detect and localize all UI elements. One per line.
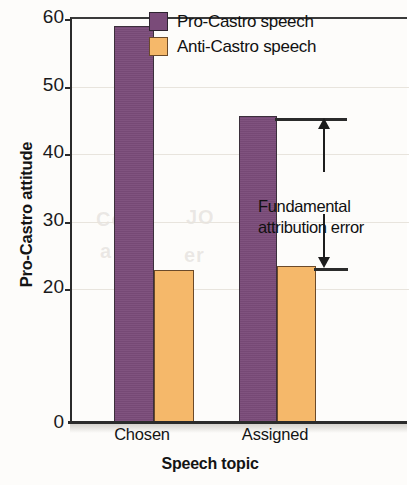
chart-legend: Pro-Castro speech Anti-Castro speech bbox=[146, 6, 320, 62]
legend-label: Pro-Castro speech bbox=[177, 12, 314, 32]
y-tick-label: 50 bbox=[24, 75, 64, 94]
bar-assigned-anti-castro[interactable] bbox=[277, 266, 316, 422]
bar-chosen-anti-castro[interactable] bbox=[154, 270, 194, 422]
annotation-top-reference-line bbox=[275, 118, 347, 121]
legend-item-pro-castro[interactable]: Pro-Castro speech bbox=[149, 9, 316, 34]
orange-swatch-icon bbox=[149, 37, 168, 56]
annotation-line-2: attribution error bbox=[258, 217, 408, 238]
bar-assigned-pro-castro[interactable] bbox=[239, 116, 277, 422]
x-tick-label-chosen: Chosen bbox=[92, 425, 192, 444]
y-tick-label: 30 bbox=[24, 210, 64, 229]
annotation-text: Fundamental attribution error bbox=[258, 196, 408, 239]
annotation-bottom-reference-line bbox=[314, 268, 348, 271]
y-tick-label: 20 bbox=[24, 277, 64, 296]
annotation-line-1: Fundamental bbox=[258, 196, 408, 217]
y-tickmark-20 bbox=[65, 289, 72, 291]
bar-chosen-pro-castro[interactable] bbox=[114, 26, 154, 422]
y-tickmark-30 bbox=[65, 222, 72, 224]
legend-item-anti-castro[interactable]: Anti-Castro speech bbox=[149, 34, 316, 59]
fundamental-attribution-error-arrow bbox=[323, 118, 326, 268]
arrow-head-down-icon bbox=[318, 257, 330, 268]
y-tickmark-50 bbox=[65, 87, 72, 89]
y-tick-label: 60 bbox=[24, 7, 64, 26]
purple-swatch-icon bbox=[149, 12, 168, 31]
y-tick-label: 0 bbox=[24, 412, 64, 431]
x-tick-label-assigned: Assigned bbox=[225, 425, 325, 444]
y-tick-label: 40 bbox=[24, 142, 64, 161]
legend-label: Anti-Castro speech bbox=[177, 37, 316, 57]
arrow-shaft-upper bbox=[323, 127, 325, 172]
y-tickmark-40 bbox=[65, 154, 72, 156]
x-axis-title: Speech topic bbox=[60, 455, 360, 473]
y-tickmark-60 bbox=[65, 19, 72, 21]
y-axis-tick-labels: 60 50 40 30 20 0 bbox=[22, 0, 64, 485]
